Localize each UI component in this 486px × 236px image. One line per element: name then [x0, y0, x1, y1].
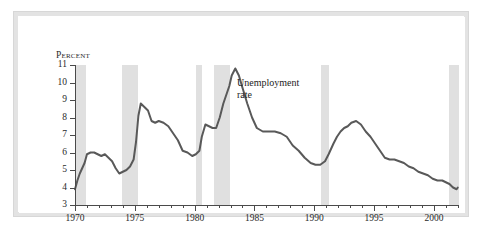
x-axis-major-tick — [195, 205, 196, 211]
x-axis-minor-tick — [290, 205, 291, 208]
y-axis-tick-label: 3 — [62, 200, 67, 210]
x-axis-minor-tick — [350, 205, 351, 208]
x-axis-minor-tick — [326, 205, 327, 208]
x-axis-minor-tick — [266, 205, 267, 208]
x-axis-minor-tick — [398, 205, 399, 208]
y-axis-tick-label: 8 — [62, 113, 67, 123]
x-axis-tick-label: 1990 — [305, 213, 324, 223]
x-axis-minor-tick — [207, 205, 208, 208]
x-axis-tick-label: 1980 — [185, 213, 204, 223]
x-axis-minor-tick — [362, 205, 363, 208]
annotation-line-1: Unemployment — [237, 77, 299, 89]
y-axis-tick-label: 4 — [62, 183, 67, 193]
x-axis-major-tick — [254, 205, 255, 211]
x-axis-minor-tick — [278, 205, 279, 208]
x-axis-minor-tick — [123, 205, 124, 208]
y-axis-tick-label: 7 — [62, 130, 67, 140]
x-axis-tick-label: 2000 — [424, 213, 443, 223]
x-axis-minor-tick — [99, 205, 100, 208]
y-axis-tick-label: 11 — [58, 60, 67, 70]
x-axis-tick-label: 1975 — [125, 213, 144, 223]
figure-inner-panel: Percent 34567891011 19701975198019851990… — [19, 17, 465, 213]
x-axis-tick-label: 1970 — [66, 213, 85, 223]
x-axis-minor-tick — [446, 205, 447, 208]
y-axis-labels: 34567891011 — [19, 65, 75, 205]
x-axis-minor-tick — [87, 205, 88, 208]
x-axis-minor-tick — [242, 205, 243, 208]
x-axis-major-tick — [374, 205, 375, 211]
y-axis-tick-label: 9 — [62, 95, 67, 105]
x-axis-minor-tick — [159, 205, 160, 208]
x-axis-minor-tick — [338, 205, 339, 208]
x-axis-minor-tick — [219, 205, 220, 208]
x-axis-major-tick — [135, 205, 136, 211]
x-axis-minor-tick — [183, 205, 184, 208]
x-axis-minor-tick — [410, 205, 411, 208]
x-axis-minor-tick — [147, 205, 148, 208]
x-axis-major-tick — [75, 205, 76, 211]
x-axis-minor-tick — [422, 205, 423, 208]
x-axis-minor-tick — [302, 205, 303, 208]
x-axis-tick-label: 1985 — [245, 213, 264, 223]
x-axis-major-tick — [434, 205, 435, 211]
series-annotation: Unemployment rate — [237, 77, 299, 100]
y-axis-tick-label: 10 — [58, 78, 68, 88]
x-axis-minor-tick — [231, 205, 232, 208]
x-axis-minor-tick — [171, 205, 172, 208]
figure-root: Percent 34567891011 19701975198019851990… — [0, 0, 486, 236]
y-axis-tick-label: 6 — [62, 148, 67, 158]
x-axis-tick-label: 1995 — [365, 213, 384, 223]
annotation-line-2: rate — [237, 89, 299, 101]
y-axis-tick-label: 5 — [62, 165, 67, 175]
x-axis-minor-tick — [111, 205, 112, 208]
x-axis-minor-tick — [386, 205, 387, 208]
x-axis-minor-tick — [458, 205, 459, 208]
y-axis-line — [75, 65, 76, 205]
x-axis-major-tick — [314, 205, 315, 211]
